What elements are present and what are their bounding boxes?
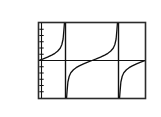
figure-background bbox=[0, 0, 161, 117]
calculator-plot bbox=[0, 0, 161, 117]
